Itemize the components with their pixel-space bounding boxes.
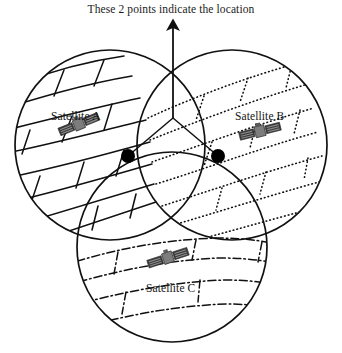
satellite-c-signal-connectors [114,240,266,314]
figure-caption: These 2 points indicate the location [0,3,342,15]
trilateration-diagram [0,0,342,353]
satellite-b-signal-arcs [148,62,330,244]
satellite-a-label: Satellite A [51,110,100,122]
satellite-b-label: Satellite B [235,110,284,122]
satellite-c-icon [145,243,189,269]
right-intersection-point [211,149,225,163]
satellite-c-label: Satellite C [146,282,195,294]
left-intersection-point [121,149,135,163]
satellite-b-coverage-circle [137,50,327,240]
figure-canvas: These 2 points indicate the location Sat… [0,0,342,353]
